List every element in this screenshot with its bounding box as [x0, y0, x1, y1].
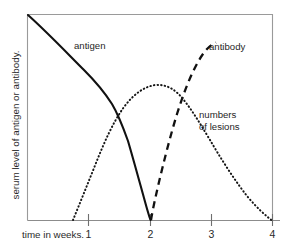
series-label-antibody: antibody [209, 41, 245, 52]
series-label-lesions-line2: of lesions [199, 121, 240, 132]
series-label-lesions-line1: numbers [199, 109, 237, 120]
x-tick-label-4: 4 [270, 228, 276, 240]
y-axis-caption: serum level of antigen or antibody. [10, 50, 21, 199]
x-axis-caption: time in weeks. [22, 229, 84, 240]
chart-canvas: 1 2 3 4 time in weeks. serum level of an… [0, 0, 291, 247]
x-tick-label-3: 3 [209, 228, 215, 240]
x-tick-label-2: 2 [148, 228, 154, 240]
series-curve-lesions [73, 85, 272, 221]
x-tick-label-1: 1 [86, 228, 92, 240]
series-label-antigen: antigen [74, 40, 105, 51]
chart-figure: 1 2 3 4 time in weeks. serum level of an… [0, 0, 291, 247]
